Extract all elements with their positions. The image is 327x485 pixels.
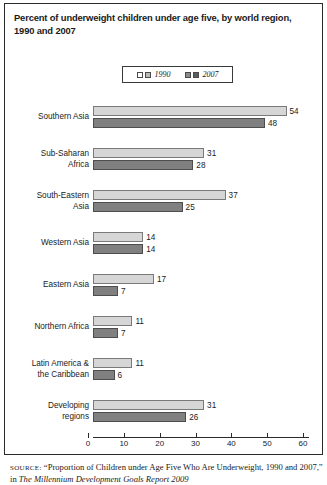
bar-1990	[93, 316, 132, 326]
category-label: Developingregions	[5, 401, 89, 422]
legend-swatch-1990-icon	[145, 72, 151, 78]
bar-2007	[93, 202, 183, 212]
x-axis-tick-label: 20	[155, 439, 164, 448]
legend-swatch-light-outline-icon	[137, 72, 143, 78]
category-label: South-EasternAsia	[5, 191, 89, 212]
category-label: Eastern Asia	[5, 280, 89, 291]
bar-1990	[93, 106, 287, 116]
x-axis-tick	[124, 433, 125, 438]
source-publication-title: The Millennium Development Goals Report …	[19, 474, 189, 484]
bar-1990	[93, 232, 143, 242]
bar-value-label: 48	[268, 119, 277, 129]
bar-value-label: 31	[207, 401, 216, 411]
legend-swatch-dark-outline-icon	[185, 72, 191, 78]
category-label-line: Eastern Asia	[5, 280, 89, 291]
category-label: Western Asia	[5, 238, 89, 249]
bar-value-label: 14	[146, 245, 155, 255]
category-label-line: Southern Asia	[5, 112, 89, 123]
x-axis-tick-label: 10	[119, 439, 128, 448]
source-prefix: SOURCE:	[10, 464, 42, 472]
bar-value-label: 37	[229, 191, 238, 201]
source-line1: “Proportion of Children under Age Five W…	[44, 462, 264, 472]
bar-2007	[93, 370, 115, 380]
bar-value-label: 11	[135, 359, 144, 369]
figure-frame: Percent of underweight children under ag…	[4, 3, 323, 455]
bar-value-label: 54	[290, 107, 299, 117]
category-label-line: Western Asia	[5, 238, 89, 249]
bar-value-label: 14	[146, 233, 155, 243]
category-label: Latin America &the Caribbean	[5, 359, 89, 380]
category-label-line: South-Eastern	[5, 191, 89, 202]
category-label-line: the Caribbean	[5, 370, 89, 381]
chart-legend: 1990 2007	[122, 66, 233, 83]
legend-entry-2007: 2007	[185, 70, 219, 79]
x-axis-tick-label: 50	[263, 439, 272, 448]
bar-2007	[93, 286, 118, 296]
plot-area: Southern Asia5448Sub-SaharanAfrica3128So…	[93, 100, 308, 437]
x-axis-tick	[231, 433, 232, 438]
bar-value-label: 6	[118, 371, 123, 381]
category-label: Southern Asia	[5, 112, 89, 123]
legend-label-2007: 2007	[203, 70, 219, 79]
bar-1990	[93, 148, 204, 158]
legend-label-1990: 1990	[155, 70, 171, 79]
bar-value-label: 31	[207, 149, 216, 159]
bar-value-label: 28	[196, 161, 205, 171]
bar-2007	[93, 118, 265, 128]
bar-2007	[93, 412, 186, 422]
bar-2007	[93, 328, 118, 338]
x-axis-tick	[267, 433, 268, 438]
bar-1990	[93, 274, 154, 284]
bar-value-label: 26	[189, 413, 198, 423]
category-label: Northern Africa	[5, 322, 89, 333]
x-axis-line	[93, 437, 309, 438]
category-label-line: Asia	[5, 202, 89, 213]
bar-2007	[93, 244, 143, 254]
category-label: Sub-SaharanAfrica	[5, 149, 89, 170]
bar-1990	[93, 358, 132, 368]
bar-2007	[93, 160, 193, 170]
x-axis-tick-label: 60	[299, 439, 308, 448]
source-note: SOURCE: “Proportion of Children under Ag…	[10, 462, 327, 485]
bar-value-label: 11	[135, 317, 144, 327]
category-label-line: Sub-Saharan	[5, 149, 89, 160]
bar-value-label: 7	[121, 329, 126, 339]
category-label-line: Developing	[5, 401, 89, 412]
bar-value-label: 25	[186, 203, 195, 213]
x-axis-tick-label: 40	[227, 439, 236, 448]
bar-1990	[93, 400, 204, 410]
bar-value-label: 7	[121, 287, 126, 297]
x-axis-tick	[160, 433, 161, 438]
bar-1990	[93, 190, 226, 200]
category-label-line: regions	[5, 412, 89, 423]
bar-value-label: 17	[157, 275, 166, 285]
category-label-line: Latin America &	[5, 359, 89, 370]
x-axis-tick-label: 30	[191, 439, 200, 448]
x-axis-tick	[88, 433, 89, 438]
chart-title: Percent of underweight children under ag…	[14, 11, 302, 37]
x-axis-tick-label: 0	[86, 439, 90, 448]
category-label-line: Northern Africa	[5, 322, 89, 333]
legend-entry-1990: 1990	[137, 70, 171, 79]
x-axis-tick	[303, 433, 304, 438]
category-label-line: Africa	[5, 160, 89, 171]
legend-swatch-2007-icon	[193, 72, 199, 78]
x-axis-tick	[196, 433, 197, 438]
